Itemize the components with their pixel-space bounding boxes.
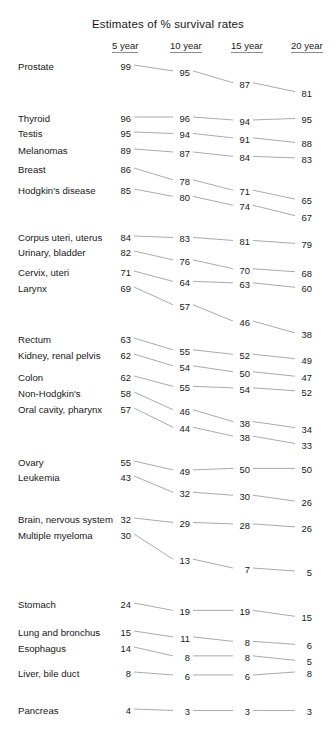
series-value: 38 bbox=[236, 433, 250, 442]
series-value: 15 bbox=[298, 613, 312, 622]
series-label: Liver, bile duct bbox=[18, 669, 79, 679]
series-value: 86 bbox=[117, 165, 131, 174]
series-label: Melanomas bbox=[18, 146, 68, 156]
series-value: 82 bbox=[117, 248, 131, 257]
series-value: 69 bbox=[117, 284, 131, 293]
series-value: 30 bbox=[236, 492, 250, 501]
series-value: 89 bbox=[117, 146, 131, 155]
series-value: 26 bbox=[298, 498, 312, 507]
series-value: 63 bbox=[236, 280, 250, 289]
series-label: Colon bbox=[18, 373, 43, 383]
series-value: 95 bbox=[176, 68, 190, 77]
series-value: 96 bbox=[117, 114, 131, 123]
series-label: Larynx bbox=[18, 284, 47, 294]
series-value: 55 bbox=[117, 458, 131, 467]
series-label: Urinary, bladder bbox=[18, 248, 86, 258]
series-value: 71 bbox=[117, 268, 131, 277]
series-value: 47 bbox=[298, 373, 312, 382]
series-value: 95 bbox=[117, 129, 131, 138]
series-value: 13 bbox=[176, 556, 190, 565]
series-label: Esophagus bbox=[18, 644, 66, 654]
series-value: 50 bbox=[298, 465, 312, 474]
series-value: 76 bbox=[176, 257, 190, 266]
series-value: 3 bbox=[236, 707, 250, 716]
series-value: 29 bbox=[176, 519, 190, 528]
series-value: 5 bbox=[298, 568, 312, 577]
series-value: 15 bbox=[117, 628, 131, 637]
series-value: 8 bbox=[236, 638, 250, 647]
series-value: 32 bbox=[176, 489, 190, 498]
series-value: 28 bbox=[236, 521, 250, 530]
series-value: 79 bbox=[298, 240, 312, 249]
series-value: 95 bbox=[298, 115, 312, 124]
series-value: 24 bbox=[117, 600, 131, 609]
series-label: Cervix, uteri bbox=[18, 268, 69, 278]
series-value: 26 bbox=[298, 524, 312, 533]
series-value: 87 bbox=[176, 149, 190, 158]
series-value: 94 bbox=[236, 117, 250, 126]
series-value: 5 bbox=[298, 657, 312, 666]
series-label: Hodgkin's disease bbox=[18, 186, 96, 196]
series-label: Testis bbox=[18, 129, 43, 139]
series-value: 3 bbox=[298, 707, 312, 716]
series-value: 58 bbox=[117, 389, 131, 398]
series-value: 62 bbox=[117, 351, 131, 360]
series-label: Corpus uteri, uterus bbox=[18, 233, 102, 243]
series-label: Oral cavity, pharynx bbox=[18, 405, 102, 415]
series-value: 33 bbox=[298, 441, 312, 450]
series-value: 83 bbox=[176, 234, 190, 243]
series-value: 81 bbox=[298, 89, 312, 98]
series-label: Brain, nervous system bbox=[18, 515, 113, 525]
series-value: 55 bbox=[176, 383, 190, 392]
series-value: 54 bbox=[236, 385, 250, 394]
series-value: 44 bbox=[176, 424, 190, 433]
series-value: 4 bbox=[117, 706, 131, 715]
series-label: Multiple myeloma bbox=[18, 531, 93, 541]
series-value: 70 bbox=[236, 266, 250, 275]
series-value: 50 bbox=[236, 369, 250, 378]
series-value: 11 bbox=[176, 634, 190, 643]
series-value: 8 bbox=[236, 653, 250, 662]
series-value: 38 bbox=[236, 419, 250, 428]
series-value: 8 bbox=[176, 653, 190, 662]
series-value: 55 bbox=[176, 347, 190, 356]
series-label: Rectum bbox=[18, 335, 51, 345]
series-value: 91 bbox=[236, 135, 250, 144]
series-value: 6 bbox=[176, 672, 190, 681]
series-value: 63 bbox=[117, 335, 131, 344]
series-value: 43 bbox=[117, 473, 131, 482]
series-value: 19 bbox=[176, 607, 190, 616]
series-value: 50 bbox=[236, 465, 250, 474]
series-value: 57 bbox=[117, 405, 131, 414]
series-label: Lung and bronchus bbox=[18, 628, 100, 638]
series-value: 34 bbox=[298, 425, 312, 434]
series-label: Ovary bbox=[18, 458, 44, 468]
series-value: 52 bbox=[236, 351, 250, 360]
series-value: 6 bbox=[236, 672, 250, 681]
series-value: 60 bbox=[298, 284, 312, 293]
series-value: 96 bbox=[176, 114, 190, 123]
series-value: 52 bbox=[298, 388, 312, 397]
series-value: 84 bbox=[117, 233, 131, 242]
series-value: 49 bbox=[176, 467, 190, 476]
series-value: 46 bbox=[176, 407, 190, 416]
series-value: 14 bbox=[117, 644, 131, 653]
series-value: 85 bbox=[117, 186, 131, 195]
series-value: 81 bbox=[236, 237, 250, 246]
series-label: Pancreas bbox=[18, 706, 59, 716]
series-value: 7 bbox=[236, 565, 250, 574]
series-label: Breast bbox=[18, 165, 46, 175]
slopegraph-chart: Estimates of % survival rates 5 year 10 … bbox=[0, 0, 336, 733]
series-label: Stomach bbox=[18, 600, 56, 610]
series-value: 80 bbox=[176, 193, 190, 202]
series-value: 30 bbox=[117, 531, 131, 540]
series-value: 83 bbox=[298, 155, 312, 164]
series-value: 67 bbox=[298, 213, 312, 222]
series-value: 64 bbox=[176, 278, 190, 287]
series-value: 54 bbox=[176, 363, 190, 372]
series-label: Kidney, renal pelvis bbox=[18, 351, 100, 361]
series-label: Thyroid bbox=[18, 114, 50, 124]
series-value: 65 bbox=[298, 196, 312, 205]
slope-lines bbox=[0, 0, 336, 733]
series-value: 88 bbox=[298, 139, 312, 148]
